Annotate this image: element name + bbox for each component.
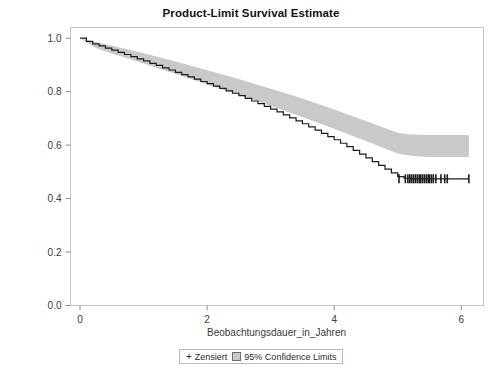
y-tick-label: 1.0 (48, 33, 62, 44)
x-tick-label: 6 (458, 314, 464, 325)
y-tick-label: 0.4 (48, 193, 62, 204)
y-tick-label: 0.6 (48, 140, 62, 151)
y-tick-label: 0.0 (48, 300, 62, 311)
survival-chart: Product-Limit Survival Estimate Überlebe… (0, 0, 502, 378)
chart-legend: + Zensiert 95% Confidence Limits (179, 349, 343, 364)
legend-item-censored: + Zensiert (186, 352, 227, 362)
x-tick-label: 4 (331, 314, 337, 325)
legend-label-censored: Zensiert (195, 352, 228, 362)
plot-frame (71, 28, 484, 306)
x-tick-label: 2 (204, 314, 210, 325)
band-swatch-icon (232, 352, 241, 361)
plot-canvas: 02460.00.20.40.60.81.0 (0, 0, 502, 378)
plus-icon: + (186, 352, 192, 362)
y-tick-label: 0.8 (48, 86, 62, 97)
legend-label-confidence: 95% Confidence Limits (244, 352, 336, 362)
x-axis-label: Beobachtungsdauer_in_Jahren (70, 327, 483, 338)
legend-item-confidence: 95% Confidence Limits (232, 352, 336, 362)
x-tick-label: 0 (77, 314, 83, 325)
y-tick-label: 0.2 (48, 247, 62, 258)
